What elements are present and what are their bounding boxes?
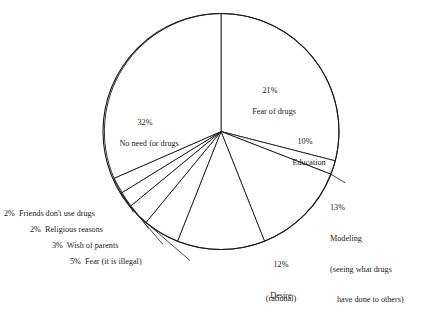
slice-text-fear-of-drugs: Fear of drugs [252,107,296,116]
slice-label-no-need-for-drugs: 32% No need for drugs [84,98,206,159]
slice-percent-fear-of-drugs: 21% [222,86,318,96]
slice-percent-modeling: 13% [330,203,431,213]
pie-chart-figure: 21% Fear of drugs 10% Education 13% Mode… [0,0,431,312]
slice-label-education: 10% Education [268,117,342,178]
slice-text-modeling: Modeling [330,234,431,244]
slice-label-religious-reasons: 2% Religious reasons [30,225,147,235]
slice-label-fear-it-is-illegal: 5% Fear (it is illegal) [70,257,186,267]
slice-text-education: Education [292,158,325,167]
slice-label-wish-of-parents: 3% Wish of parents [52,241,152,251]
slice-label-friends-dont-use-drugs: 2% Friends don't use drugs [4,209,132,219]
slice-text-no-need-for-drugs: No need for drugs [119,139,178,148]
slice-note-desire-rational: (rational) [250,294,312,304]
slice-note2-modeling: have done to others) [330,295,431,305]
slice-label-modeling: 13% Modeling (seeing what drugs have don… [330,183,431,312]
slice-percent-education: 10% [268,137,342,147]
slice-percent-no-need-for-drugs: 32% [84,118,206,128]
slice-percent-desire: 12% [250,260,312,270]
slice-note1-modeling: (seeing what drugs [330,265,431,275]
